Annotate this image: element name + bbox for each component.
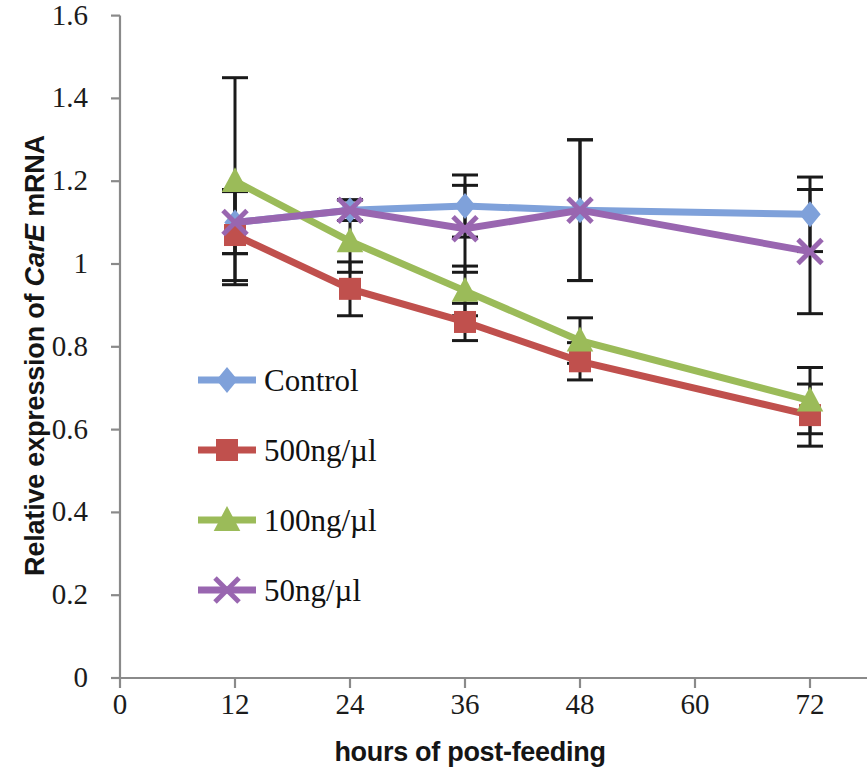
legend-item[interactable]: 50ng/µl bbox=[196, 555, 456, 625]
legend-item[interactable]: Control bbox=[196, 345, 456, 415]
legend-label: Control bbox=[264, 365, 359, 396]
data-point-square bbox=[216, 439, 238, 461]
data-point-square bbox=[339, 278, 361, 300]
data-point-square bbox=[569, 350, 591, 372]
data-point-diamond bbox=[454, 193, 475, 219]
chart-legend: Control500ng/µl100ng/µl50ng/µl bbox=[196, 345, 456, 625]
legend-item[interactable]: 100ng/µl bbox=[196, 485, 456, 555]
legend-marker-diamond-icon bbox=[196, 363, 258, 397]
data-point-square bbox=[454, 311, 476, 333]
legend-marker-cross-icon bbox=[196, 573, 258, 607]
legend-item[interactable]: 500ng/µl bbox=[196, 415, 456, 485]
data-point-diamond bbox=[799, 201, 820, 227]
legend-label: 100ng/µl bbox=[264, 505, 377, 536]
data-point-triangle bbox=[222, 167, 249, 192]
data-point-diamond bbox=[216, 367, 237, 393]
legend-label: 50ng/µl bbox=[264, 575, 361, 606]
error-bars-50ng/µl bbox=[222, 140, 823, 314]
legend-label: 500ng/µl bbox=[264, 435, 377, 466]
chart-figure: Relative expression of CarE mRNA 00.20.4… bbox=[0, 0, 867, 775]
series-line bbox=[235, 210, 810, 251]
legend-marker-triangle-icon bbox=[196, 503, 258, 537]
legend-marker-square-icon bbox=[196, 433, 258, 467]
